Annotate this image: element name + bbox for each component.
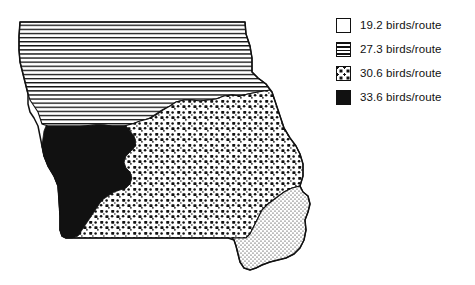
choropleth-figure: 19.2 birds/route 27.3 birds/route 30.6 b… (0, 0, 475, 285)
fine-dots-swatch-icon (336, 18, 351, 33)
legend-item: 27.3 birds/route (336, 37, 475, 61)
legend-item: 30.6 birds/route (336, 61, 475, 85)
legend: 19.2 birds/route 27.3 birds/route 30.6 b… (336, 13, 475, 109)
horizontal-lines-swatch-icon (336, 42, 351, 57)
missouri-map (0, 0, 330, 285)
solid-black-swatch-icon (336, 90, 351, 105)
legend-item: 19.2 birds/route (336, 13, 475, 37)
blotchy-dots-swatch-icon (336, 66, 351, 81)
legend-item: 33.6 birds/route (336, 85, 475, 109)
legend-item-label: 33.6 birds/route (360, 91, 442, 104)
legend-item-label: 30.6 birds/route (360, 67, 442, 80)
legend-item-label: 27.3 birds/route (360, 43, 442, 56)
legend-item-label: 19.2 birds/route (360, 19, 442, 32)
